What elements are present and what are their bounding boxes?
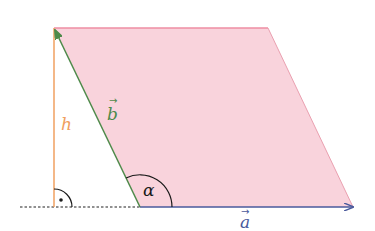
vector-b-label: b <box>107 104 118 124</box>
parallelogram-area <box>54 28 353 207</box>
height-label: h <box>61 114 72 134</box>
right-angle-dot <box>59 198 63 202</box>
vector-b-arrow-mark: → <box>109 95 117 106</box>
parallelogram-diagram: h b → α a → <box>0 0 375 231</box>
angle-alpha-label: α <box>143 180 155 200</box>
vector-a-arrow-mark: → <box>241 206 249 217</box>
right-angle-arc <box>54 189 72 207</box>
